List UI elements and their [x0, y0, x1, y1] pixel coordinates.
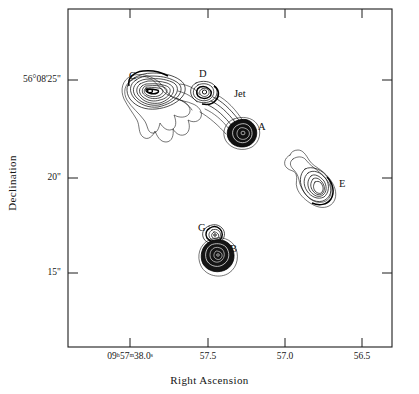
- source-label-jet: Jet: [234, 88, 246, 99]
- y-tick-label-0: 56°08'25": [0, 74, 61, 84]
- contour-group-D: [191, 81, 219, 104]
- source-label-A: A: [258, 121, 266, 132]
- source-label-C: C: [129, 70, 136, 81]
- y-axis-title: Declination: [6, 123, 18, 243]
- source-label-G: G: [198, 222, 206, 233]
- y-tick-label-2: 15": [0, 267, 61, 277]
- x-tick-label-3: 56.5: [332, 351, 392, 361]
- contour-group-E: [285, 150, 336, 207]
- x-tick-label-0: 09ʰ57ᵐ38.0ˢ: [85, 351, 175, 361]
- source-label-B: B: [230, 243, 237, 254]
- source-label-E: E: [339, 178, 345, 189]
- x-tick-label-2: 57.0: [255, 351, 315, 361]
- contour-group-C: [122, 71, 201, 142]
- contour-map-figure: 56°08'25" 20" 15" 09ʰ57ᵐ38.0ˢ 57.5 57.0 …: [0, 0, 419, 394]
- x-tick-label-1: 57.5: [178, 351, 238, 361]
- contour-plot-canvas: [0, 0, 419, 394]
- x-axis-title: Right Ascension: [0, 374, 419, 386]
- source-label-D: D: [199, 68, 207, 79]
